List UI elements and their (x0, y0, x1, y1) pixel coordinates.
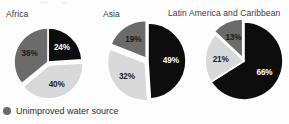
legend-label: Unimproved water source (16, 106, 119, 116)
pie-slice-label: 49% (163, 56, 180, 65)
pie-svg-asia: 49%32%19% (103, 19, 189, 105)
pie-slice-label: 13% (225, 33, 242, 42)
chart-title-asia: Asia (103, 9, 120, 19)
pie-chart-figure: Africa Asia Latin America and Caribbean … (0, 0, 289, 124)
pie-slice-label: 24% (54, 43, 71, 52)
pie-slice-label: 32% (119, 72, 136, 81)
pie-svg-latin-america: 66%21%13% (200, 17, 288, 105)
scan-artifact (40, 1, 48, 4)
pie-slice-label: 40% (49, 80, 66, 89)
pie-chart-asia: 49%32%19% (103, 19, 189, 105)
pie-slice-label: 19% (125, 35, 142, 44)
pie-slice-label: 66% (256, 68, 273, 77)
pie-svg-africa: 24%40%36% (6, 24, 90, 104)
scan-artifact (62, 2, 67, 4)
circle-bullet-icon (3, 107, 11, 115)
chart-title-africa: Africa (6, 9, 28, 19)
pie-slice-label: 36% (21, 49, 38, 58)
pie-slice-label: 21% (213, 55, 230, 64)
pie-chart-latin-america: 66%21%13% (200, 17, 288, 105)
legend: Unimproved water source (3, 106, 119, 116)
pie-chart-africa: 24%40%36% (6, 24, 90, 104)
